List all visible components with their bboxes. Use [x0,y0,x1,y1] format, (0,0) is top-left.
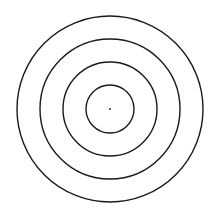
concentric-circles-diagram [0,0,217,215]
center-dot [109,108,111,110]
